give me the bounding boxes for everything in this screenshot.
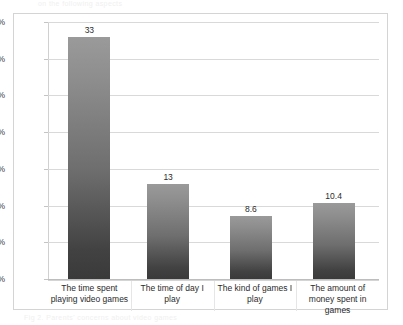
x-axis-category-label-2: The time of day I play: [133, 283, 212, 305]
bar-4[interactable]: [313, 203, 355, 279]
category-separator-1: [131, 281, 132, 311]
y-axis-tick-5%: [44, 242, 48, 243]
x-axis-category-label-3: The kind of games I play: [216, 283, 295, 305]
y-axis-label-15%: 15%: [0, 164, 5, 174]
y-axis-tick-15%: [44, 169, 48, 170]
scan-artifact-bottom-text: Fig 2. Parents' concerns about video gam…: [24, 314, 177, 321]
y-axis-label-10%: 10%: [0, 201, 5, 211]
scan-artifact-top-text: on the following aspects: [38, 0, 122, 7]
y-axis-tick-10%: [44, 206, 48, 207]
bar-value-label-2: 13: [163, 172, 172, 182]
x-axis-category-label-1: The time spent playing video games: [50, 283, 129, 305]
bar-value-label-1: 33: [85, 25, 94, 35]
y-axis-label-5%: 5%: [0, 237, 5, 247]
y-axis-tick-35%: [44, 22, 48, 23]
y-axis-tick-25%: [44, 95, 48, 96]
bar-value-label-4: 10.4: [325, 191, 342, 201]
category-separator-2: [214, 281, 215, 311]
y-axis-label-20%: 20%: [0, 127, 5, 137]
y-axis-tick-30%: [44, 59, 48, 60]
plot-area: 0%5%10%15%20%25%30%35%33138.610.4: [48, 22, 379, 279]
bar-value-label-3: 8.6: [245, 204, 257, 214]
bar-2[interactable]: [147, 184, 189, 279]
category-separator-3: [296, 281, 297, 311]
y-axis-label-25%: 25%: [0, 90, 5, 100]
bar-1[interactable]: [68, 37, 110, 279]
y-axis-label-35%: 35%: [0, 17, 5, 27]
x-axis-category-band: The time spent playing video gamesThe ti…: [48, 280, 379, 311]
y-axis-tick-20%: [44, 132, 48, 133]
chart-frame: 0%5%10%15%20%25%30%35%33138.610.4 The ti…: [13, 13, 388, 310]
y-axis-label-0%: 0%: [0, 274, 5, 284]
bar-3[interactable]: [230, 216, 272, 279]
y-axis-label-30%: 30%: [0, 54, 5, 64]
gridline-35%: [48, 22, 379, 23]
x-axis-category-label-4: The amount of money spent in games: [298, 283, 377, 316]
